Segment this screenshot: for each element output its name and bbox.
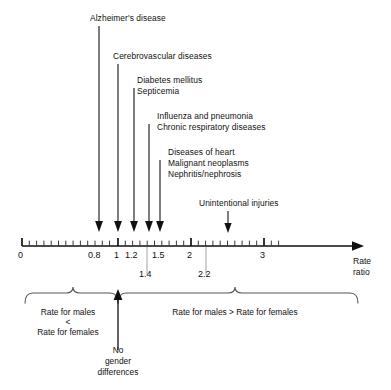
callout-label-diabetes: Diabetes mellitus	[137, 75, 202, 86]
callout-label-diseases-of-heart: Diseases of heart	[168, 147, 235, 158]
pointer-unintentional	[224, 211, 231, 233]
brace-left	[25, 287, 118, 303]
callout-label-alzheimers: Alzheimer's disease	[90, 13, 166, 24]
axis-tick-label-1: 1	[114, 250, 119, 260]
axis-drop-tick-label-1-4: 1.4	[139, 269, 152, 279]
callout-label-cerebrovascular: Cerebrovascular diseases	[113, 51, 212, 62]
axis-tick-label-1-5: 1.5	[152, 250, 165, 260]
axis-tick-label-0-8: 0.8	[88, 250, 101, 260]
region-center-label-line3: differences	[88, 367, 148, 377]
pointer-arrowhead-icon	[224, 223, 231, 233]
callout-label-influenza: Influenza and pneumonia	[157, 111, 253, 122]
axis-drop-tick-label-2-2: 2.2	[198, 269, 211, 279]
region-left-label-line3: Rate for females	[23, 327, 113, 337]
pointer-arrowhead-icon	[130, 221, 138, 232]
rate-ratio-figure: Alzheimer's disease Cerebrovascular dise…	[0, 0, 391, 390]
axis-arrowhead-icon	[352, 241, 364, 251]
pointer-arrowhead-icon	[95, 221, 103, 232]
no-gender-difference-pointer	[114, 289, 123, 350]
brace-right	[118, 287, 358, 303]
region-left-label-line1: Rate for males	[23, 307, 113, 317]
pointer-cerebrovascular	[114, 64, 122, 232]
region-center-label-line1: No	[88, 345, 148, 355]
callout-label-nephritis-nephrosis: Nephritis/nephrosis	[168, 169, 241, 180]
axis-tick-label-3: 3	[260, 250, 265, 260]
callout-label-septicemia: Septicemia	[137, 86, 179, 97]
pointer-arrowhead-icon	[145, 221, 153, 232]
region-right-label-line1: Rate for males > Rate for females	[140, 307, 330, 317]
axis-tick-label-2: 2	[187, 250, 192, 260]
axis-tick-label-1-2: 1.2	[125, 250, 138, 260]
pointer-diabetes-septicemia	[130, 88, 138, 232]
callout-label-unintentional-injuries: Unintentional injuries	[199, 198, 279, 209]
pointer-alzheimers	[95, 26, 103, 232]
axis-tick-label-0: 0	[18, 250, 23, 260]
region-center-label-line2: gender	[88, 356, 148, 366]
callout-label-chronic-respiratory: Chronic respiratory diseases	[157, 122, 265, 133]
axis-title-line1: Rate	[353, 256, 371, 266]
pointer-heart-malignant-nephritis	[156, 160, 164, 232]
region-braces	[25, 287, 358, 303]
pointer-arrowhead-icon	[156, 221, 164, 232]
pointer-arrowhead-icon	[114, 221, 122, 232]
region-left-label-line2: <	[23, 317, 113, 327]
pointer-influenza-chronic	[145, 124, 153, 232]
callout-label-malignant-neoplasms: Malignant neoplasms	[168, 158, 249, 169]
axis-title-line2: ratio	[353, 267, 370, 277]
